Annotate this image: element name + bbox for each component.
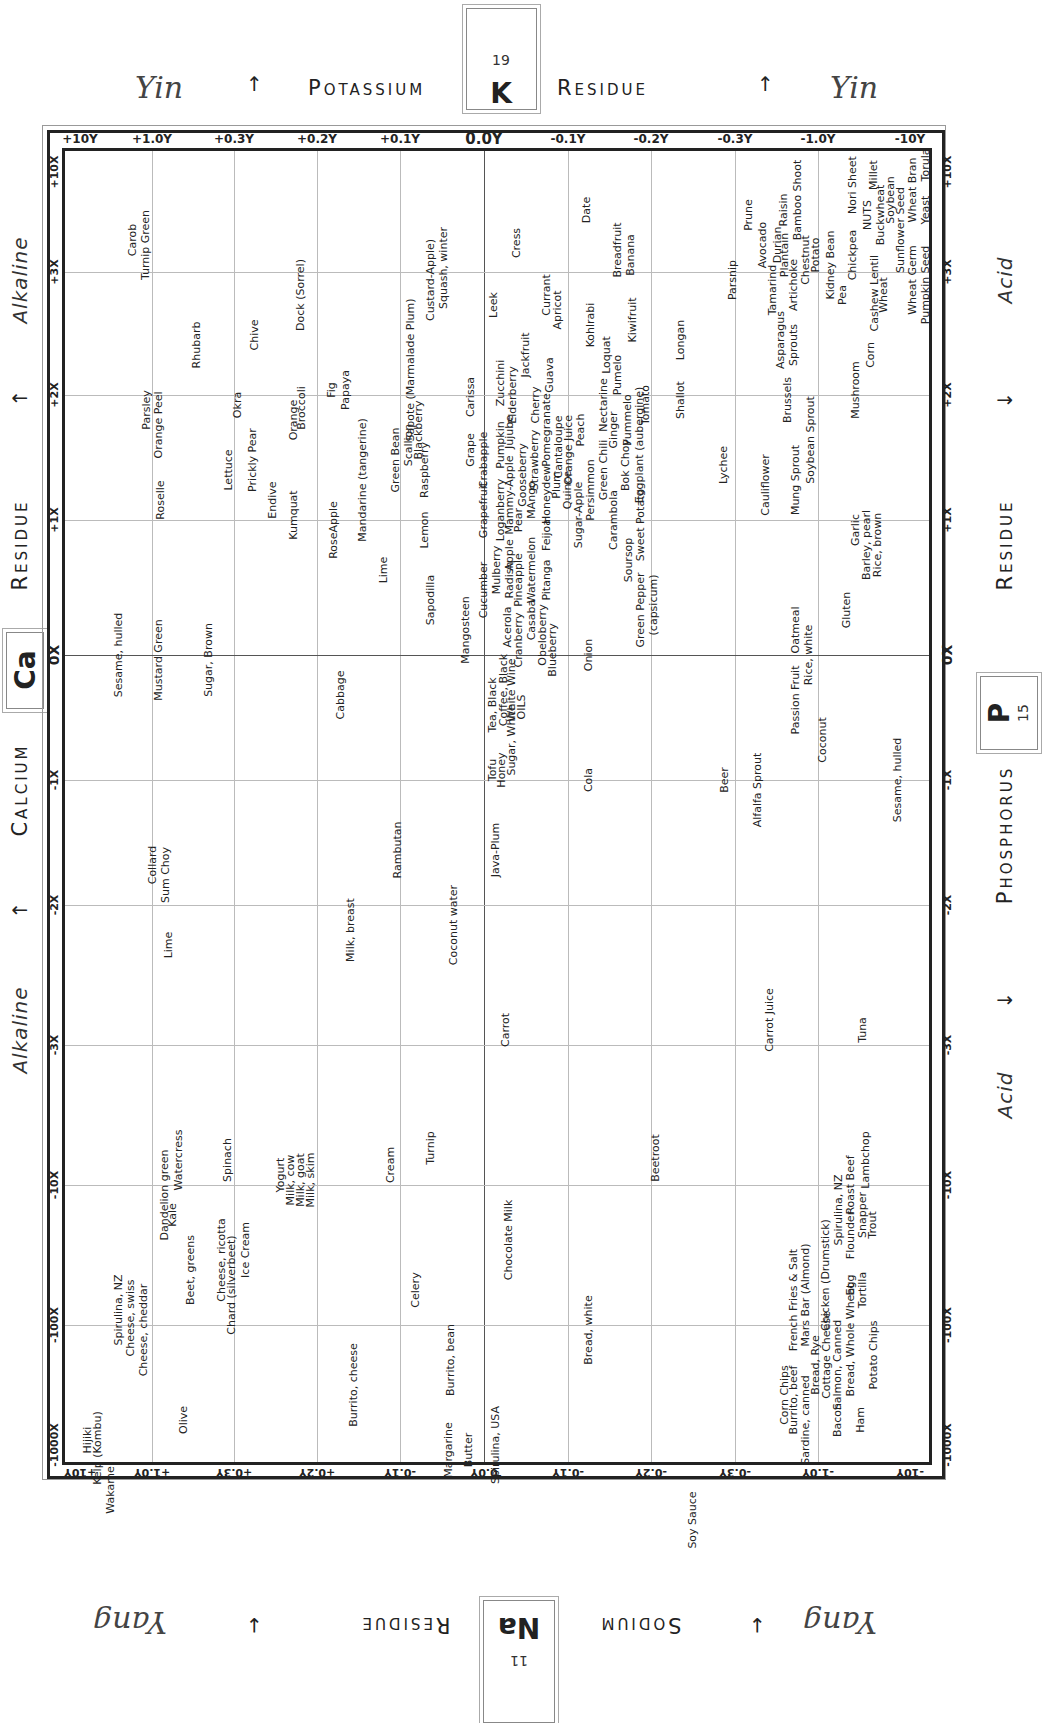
food-label: Carrot Juice (764, 988, 775, 1052)
y-axis-tick-top: -0.1Y (551, 132, 586, 146)
food-label: Watermelon (526, 537, 537, 604)
food-label: Pumpkin Seed (920, 246, 931, 325)
element-box-sodium: Na 11 (483, 1600, 555, 1723)
x-axis-tick-right: -2X (941, 895, 954, 916)
up-arrow-icon: ↑ (757, 72, 774, 96)
x-axis-tick-left: -2X (48, 895, 61, 916)
food-label: Tuna (857, 1017, 868, 1043)
y-axis-tick-top: +0.3Y (214, 132, 254, 146)
y-axis-tick-top: +0.1Y (380, 132, 420, 146)
food-label: Shallot (675, 381, 686, 419)
food-label: (capsicum) (648, 575, 659, 636)
arrow-left-icon: ↑ (8, 390, 32, 407)
food-label: Milk, breast (345, 898, 356, 962)
y-axis-tick-bottom: +0.3Y (216, 1466, 253, 1479)
phosphorus-label: Phosphorus (993, 766, 1017, 904)
food-label: Custard-Apple) (425, 239, 436, 321)
food-label: Strawberry (529, 430, 540, 491)
food-label: Cheese, swiss (125, 1280, 136, 1357)
food-label: Carissa (465, 377, 476, 417)
food-label: Endive (267, 481, 278, 518)
food-label: Coconut (817, 717, 828, 762)
food-label: Elderberry (507, 366, 518, 423)
food-label: Cream (385, 1147, 396, 1183)
food-label: Cauliflower (760, 454, 771, 515)
alkaline-label-top: Alkaline (8, 236, 32, 323)
food-label: Guava (544, 357, 555, 393)
food-label: Cola (583, 768, 594, 792)
food-label: Coconut water (448, 885, 459, 965)
food-label: Bamboo Shoot (792, 160, 803, 241)
food-label: Collard (147, 846, 158, 885)
food-label: OILS (516, 694, 527, 719)
y-axis-tick-bottom: -0.2Y (635, 1466, 667, 1479)
x-axis-tick-right: -10X (941, 1171, 954, 1199)
x-axis-tick-right: +10X (941, 155, 954, 188)
food-label: Sprouts (788, 324, 799, 366)
food-label: Zucchini (495, 360, 506, 407)
food-label: Rice, brown (872, 513, 883, 577)
yin-label-right: Yin (830, 70, 878, 105)
food-label: Pummelo (622, 394, 633, 445)
x-axis-tick-right: +2X (941, 382, 954, 407)
food-label: Cress (511, 228, 522, 258)
food-label: Okra (232, 392, 243, 418)
food-label: Artichoke (788, 259, 799, 311)
y-axis-tick-bottom: -0.3Y (719, 1466, 751, 1479)
y-axis-tick-top: -1.0Y (801, 132, 836, 146)
food-label: Flounder (845, 1211, 856, 1259)
food-label: Cabbage (335, 671, 346, 720)
x-axis-tick-left: -100X (48, 1307, 61, 1343)
x-axis-tick-left: 0X (46, 645, 62, 666)
food-label: Peach (575, 414, 586, 447)
food-label: Wheat (878, 277, 889, 313)
food-label: Mung Sprout (790, 445, 801, 515)
residue-label-right: Residue (993, 499, 1017, 590)
food-label: Watercress (173, 1130, 184, 1191)
food-label: Burrito, bean (445, 1324, 456, 1396)
food-label: Egg (845, 1275, 856, 1296)
food-label: Spinach (222, 1138, 233, 1182)
food-label: Mangosteen (460, 596, 471, 663)
arrow-left-icon: ↑ (8, 902, 32, 919)
food-label: Rambutan (392, 822, 403, 879)
food-label: Potato Chips (868, 1321, 879, 1390)
food-label: Spirulina, NZ (833, 1174, 844, 1245)
x-axis-tick-right: -1X (941, 770, 954, 791)
food-label: Apricot (552, 290, 563, 329)
food-label: Kumquat (288, 490, 299, 539)
food-label: Parsnip (727, 260, 738, 300)
food-label: Mushroom (850, 361, 861, 419)
food-label: Sum Choy (160, 847, 171, 903)
food-label: Mars Bar (Almond) (800, 1244, 811, 1347)
food-label: Grape (465, 433, 476, 467)
food-label: Orange Juice (563, 415, 574, 485)
residue-label-left: Residue (8, 499, 32, 590)
food-label: NUTS (862, 200, 873, 230)
food-label: Pitanga (541, 559, 552, 600)
food-label: Wakame (105, 1466, 116, 1513)
food-label: Butter (463, 1433, 474, 1467)
yang-label-right: Yang (803, 1605, 877, 1640)
acid-label-top: Acid (993, 257, 1017, 304)
food-label: Prune (743, 199, 754, 231)
food-label: Roast Beef (845, 1155, 856, 1214)
x-axis-tick-left: +3X (48, 259, 61, 284)
yin-label-left: Yin (135, 70, 183, 105)
food-label: French Fries & Salt (788, 1249, 799, 1351)
y-axis-tick-top: +10Y (62, 132, 97, 146)
food-label: Java-Plum (490, 823, 501, 878)
x-axis-tick-left: -1000X (48, 1423, 61, 1467)
food-label: Chive (249, 320, 260, 351)
food-label: Cranberry (513, 612, 524, 667)
food-label: Alfalfa Sprout (752, 753, 763, 828)
food-label: Sesame, hulled (113, 613, 124, 698)
x-axis-tick-right: -100X (941, 1307, 954, 1343)
food-label: Nori Sheet (847, 156, 858, 214)
x-axis-tick-right: +3X (941, 259, 954, 284)
calcium-label: Calcium (8, 743, 32, 836)
food-label: Pomegranate (541, 393, 552, 467)
potassium-symbol: K (490, 77, 512, 110)
food-label: Torula (920, 149, 931, 182)
food-label: Dock (Sorrel) (295, 259, 306, 331)
